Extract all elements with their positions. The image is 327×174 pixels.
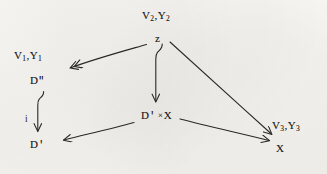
node-v3y3-base2: Y [288,119,296,131]
node-d-prime-cross-x-mark: ' [149,111,155,122]
node-v3y3-sub2: 3 [296,124,300,133]
node-v1y1-sub1: 1 [22,54,26,63]
node-d-prime-base: D [30,138,38,150]
arrow-label-i: i [25,114,28,124]
node-d-prime-cross-x-factor: X [164,109,172,121]
node-v3y3: V3,Y3 [272,120,300,132]
node-v2y2-base1: V [142,9,150,21]
arrow-dprimecrossx-to-dprime [64,123,134,141]
arrow-dprimeprime-to-dprime [38,92,44,132]
node-v2y2-sub1: 2 [150,14,154,23]
node-v1y1-base1: V [14,49,22,61]
node-v1y1-sub2: 1 [38,54,42,63]
node-v3y3-base1: V [272,119,280,131]
node-d-double-prime-mark: " [38,76,44,87]
node-d-prime-mark: ' [38,140,44,151]
node-x: X [276,143,284,154]
node-v2y2-base2: Y [158,9,166,21]
node-v1y1: V1,Y1 [14,50,42,62]
node-d-prime-cross-x-base: D [141,109,149,121]
arrow-z-to-dprimecrossx [156,44,162,102]
node-v2y2: V2,Y2 [142,10,170,22]
node-d-double-prime-base: D [30,74,38,86]
times-icon: × [158,110,163,120]
node-d-prime-cross-x: D'×X [141,110,172,122]
node-v3y3-sub1: 3 [280,124,284,133]
diagram-canvas: V2,Y2 z V1,Y1 D" D' D'×X V3,Y3 X i [0,0,327,174]
node-v2y2-sub2: 2 [166,14,170,23]
node-d-prime: D' [30,139,45,151]
node-d-double-prime: D" [30,75,45,87]
arrow-dprimecrossx-to-x [180,119,269,141]
node-z: z [155,33,160,44]
node-v1y1-base2: Y [30,49,38,61]
arrow-z-to-v1y1 [72,45,147,68]
